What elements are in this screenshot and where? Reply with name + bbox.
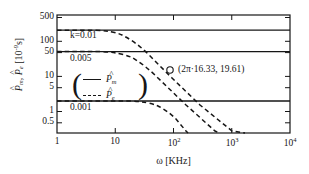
x-tick-mantissa-1: 1 — [55, 136, 60, 146]
x-tick-label-10: 10 — [103, 137, 127, 147]
y-axis-pm-symbol: ^P — [12, 85, 24, 91]
legend: ( ) ^Pm ^Pe — [72, 70, 148, 104]
y-axis-bracket: [10 — [13, 50, 24, 66]
annotation-operating-point: (2π·16.33, 19.61) — [178, 64, 245, 74]
legend-line-dashed-icon — [83, 95, 101, 96]
x-tick-mantissa-10000: 10 — [284, 138, 294, 148]
figure-container: 500 100 50 10 5 1 0.5 1 10 102 103 104 ^… — [0, 0, 309, 174]
annotation-k-0001: 0.001 — [70, 103, 91, 113]
x-tick-mantissa-10: 10 — [110, 136, 120, 146]
hat-accent-pe: ^ — [9, 70, 18, 74]
hat-accent-legend-pm: ^ — [109, 70, 113, 79]
legend-label-pm: ^Pm — [106, 73, 117, 85]
legend-paren-right: ) — [138, 67, 148, 101]
y-axis-unit: s] — [13, 38, 24, 45]
legend-entry-pm: ^Pm — [83, 72, 117, 86]
x-tick-mantissa-1000: 10 — [226, 138, 236, 148]
x-axis-title: ω [KHz] — [57, 155, 290, 166]
hat-accent-legend-pe: ^ — [108, 86, 112, 95]
legend-line-solid-icon — [83, 79, 101, 80]
annotation-k-0005: 0.005 — [70, 54, 91, 64]
hat-accent-pm: ^ — [9, 86, 18, 90]
x-tick-label-10000: 104 — [276, 137, 304, 149]
x-tick-exponent-100: 2 — [177, 136, 180, 143]
legend-entry-pe: ^Pe — [83, 88, 115, 102]
annotation-k-001: k=0.01 — [70, 31, 97, 41]
x-tick-mantissa-100: 10 — [168, 138, 178, 148]
x-tick-label-1000: 103 — [218, 137, 246, 149]
operating-point-marker — [167, 67, 173, 73]
y-axis-exponent: -9 — [12, 45, 19, 50]
x-tick-exponent-1000: 3 — [235, 136, 238, 143]
x-tick-label-1: 1 — [45, 137, 69, 147]
legend-paren-left: ( — [72, 67, 82, 101]
y-axis-separator: , — [13, 75, 24, 80]
x-tick-exponent-10000: 4 — [293, 136, 296, 143]
x-tick-label-100: 102 — [160, 137, 188, 149]
y-axis-title: ^Pm, ^Pe [10-9s] — [12, 4, 25, 124]
y-axis-pe-symbol: ^P — [12, 69, 24, 75]
legend-label-pe: ^Pe — [106, 89, 115, 101]
